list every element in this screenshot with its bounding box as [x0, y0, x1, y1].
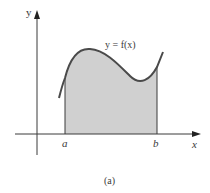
bound-label-b: b — [153, 137, 159, 149]
curve-label: y = f(x) — [105, 39, 136, 51]
x-axis-arrowhead-icon — [192, 131, 201, 137]
y-axis-arrowhead-icon — [34, 10, 40, 19]
x-axis-label: x — [191, 138, 197, 150]
shaded-area — [65, 49, 157, 134]
bound-label-a: a — [62, 137, 68, 149]
y-axis-label: y — [26, 6, 32, 18]
figure-caption: (a) — [104, 175, 115, 187]
area-under-curve-diagram: y x a b y = f(x) (a) — [0, 0, 210, 193]
